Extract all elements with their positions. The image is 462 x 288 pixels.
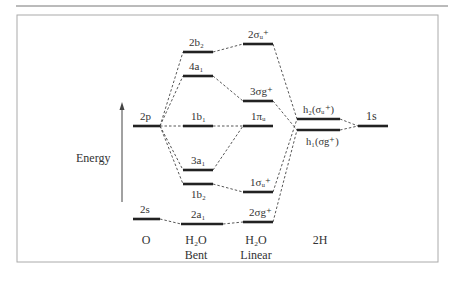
column-label-h2o-bent: H₂O bbox=[185, 233, 207, 247]
label-2p: 2p bbox=[140, 110, 152, 122]
label-h2: h₂(σᵤ⁺) bbox=[303, 104, 335, 116]
label-1b2: 1b₂ bbox=[191, 188, 206, 200]
mo-correlation-diagram: Energy bbox=[0, 0, 462, 288]
label-3sigma-g: 3σg⁺ bbox=[250, 85, 273, 97]
label-1sigma-u: 1σᵤ⁺ bbox=[250, 176, 271, 188]
energy-axis: Energy bbox=[76, 102, 125, 202]
column-label-2h: 2H bbox=[313, 233, 328, 247]
energy-axis-label: Energy bbox=[76, 151, 110, 165]
label-2s: 2s bbox=[140, 203, 150, 215]
label-2sigma-u: 2σᵤ⁺ bbox=[248, 28, 269, 40]
label-2b2: 2b₂ bbox=[189, 36, 204, 48]
column-sublabel-bent: Bent bbox=[185, 248, 208, 262]
column-label-h2o-linear: H₂O bbox=[245, 233, 267, 247]
energy-levels bbox=[133, 44, 388, 224]
column-labels: O H₂O Bent H₂O Linear 2H bbox=[142, 233, 328, 262]
label-3a1: 3a₁ bbox=[191, 154, 205, 166]
figure-frame bbox=[17, 15, 438, 262]
label-1s: 1s bbox=[366, 109, 377, 123]
arrow-up-icon bbox=[120, 102, 125, 110]
label-1b1: 1b₁ bbox=[191, 110, 206, 122]
label-2sigma-g: 2σg⁺ bbox=[249, 206, 272, 218]
column-label-o: O bbox=[142, 233, 151, 247]
label-h1: h₁(σg⁺) bbox=[306, 136, 339, 148]
label-4a1: 4a₁ bbox=[189, 60, 203, 72]
label-1pi-u: 1πᵤ bbox=[251, 110, 266, 122]
label-2a1: 2a₁ bbox=[191, 208, 205, 220]
column-sublabel-linear: Linear bbox=[240, 248, 271, 262]
